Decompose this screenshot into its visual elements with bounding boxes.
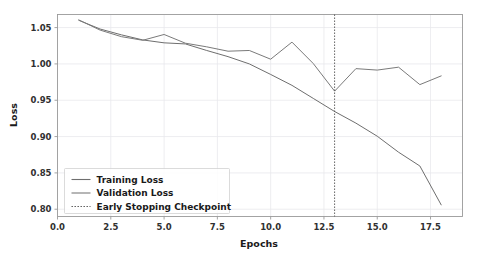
- y-tick-label: 0.80: [31, 204, 52, 214]
- y-tick-label: 0.95: [31, 95, 52, 105]
- legend-label-1: Training Loss: [97, 175, 164, 185]
- y-tick-label: 0.85: [31, 168, 52, 178]
- y-axis-title: Loss: [8, 103, 19, 127]
- series-line-validation-loss: [79, 20, 441, 91]
- x-tick-label: 12.5: [313, 222, 334, 232]
- x-tick-label: 17.5: [420, 222, 441, 232]
- x-tick-label: 2.5: [103, 222, 118, 232]
- legend-label-2: Validation Loss: [97, 188, 174, 198]
- y-tick-label: 1.05: [31, 23, 52, 33]
- x-axis-title: Epochs: [240, 238, 278, 249]
- x-tick-label: 15.0: [367, 222, 388, 232]
- loss-curve-chart: 0.02.55.07.510.012.515.017.50.800.850.90…: [0, 0, 481, 260]
- legend: Training LossValidation LossEarly Stoppi…: [65, 169, 232, 214]
- x-tick-label: 0.0: [50, 222, 65, 232]
- y-tick-label: 1.00: [31, 59, 52, 69]
- x-tick-label: 10.0: [260, 222, 281, 232]
- y-tick-label: 0.90: [31, 132, 52, 142]
- x-tick-label: 7.5: [210, 222, 225, 232]
- legend-label-3: Early Stopping Checkpoint: [97, 202, 232, 212]
- chart-figure: 0.02.55.07.510.012.515.017.50.800.850.90…: [0, 0, 481, 260]
- x-tick-label: 5.0: [157, 222, 172, 232]
